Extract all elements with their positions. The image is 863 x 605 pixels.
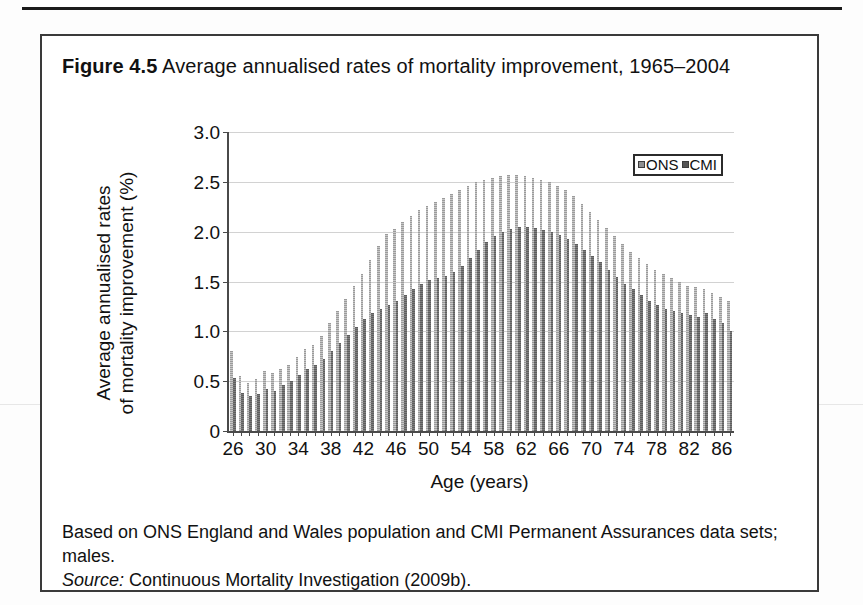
bar-cmi (477, 250, 480, 431)
x-tick-mark (559, 431, 560, 436)
bar-cmi (665, 309, 668, 431)
x-tick-mark (567, 431, 568, 436)
bar-series-container (229, 132, 734, 431)
bar-group (595, 132, 603, 431)
bar-cmi (363, 319, 366, 431)
legend-label-cmi: CMI (690, 157, 718, 172)
bar-cmi (404, 295, 407, 431)
figure-container: Figure 4.5 Average annualised rates of m… (40, 34, 819, 592)
bar-cmi (526, 227, 529, 431)
bar-group (701, 132, 709, 431)
x-tick-mark (526, 431, 527, 436)
bar-cmi (599, 262, 602, 431)
x-axis-label: Age (years) (227, 471, 732, 493)
x-tick-mark (681, 431, 682, 436)
bar-group (384, 132, 392, 431)
bar-cmi (355, 327, 358, 431)
bar-group (262, 132, 270, 431)
bar-group (693, 132, 701, 431)
bar-group (465, 132, 473, 431)
x-tick-label: 86 (711, 439, 732, 458)
x-tick-mark (396, 431, 397, 436)
bar-group (685, 132, 693, 431)
x-tick-mark (282, 431, 283, 436)
x-tick-label: 66 (548, 439, 569, 458)
bar-cmi (673, 311, 676, 431)
chart-legend: ONS CMI (633, 154, 723, 176)
bar-group (302, 132, 310, 431)
bar-group (319, 132, 327, 431)
bar-group (416, 132, 424, 431)
x-tick-mark (380, 431, 381, 436)
legend-swatch-ons (638, 161, 645, 168)
x-tick-mark (315, 431, 316, 436)
y-tick-label: 1.5 (194, 272, 220, 291)
legend-swatch-cmi (682, 161, 689, 168)
bar-cmi (274, 391, 277, 431)
x-tick-mark (657, 431, 658, 436)
bar-group (237, 132, 245, 431)
bar-cmi (314, 365, 317, 431)
figure-caption: Based on ONS England and Wales populatio… (62, 520, 792, 592)
bar-group (522, 132, 530, 431)
y-axis-label: Average annualised rates of mortality im… (92, 143, 138, 443)
x-tick-label: 54 (451, 439, 472, 458)
x-tick-mark (274, 431, 275, 436)
x-tick-label: 78 (646, 439, 667, 458)
bar-cmi (371, 313, 374, 431)
y-tick-label: 2.0 (194, 222, 220, 241)
bar-group (424, 132, 432, 431)
y-axis-label-line2: of mortality improvement (%) (115, 143, 138, 443)
bar-group (669, 132, 677, 431)
bar-cmi (697, 317, 700, 431)
bar-cmi (420, 284, 423, 432)
bar-cmi (616, 277, 619, 431)
x-tick-mark (640, 431, 641, 436)
x-tick-mark (290, 431, 291, 436)
bar-group (408, 132, 416, 431)
bar-cmi (257, 394, 260, 431)
x-tick-mark (388, 431, 389, 436)
bar-cmi (689, 315, 692, 431)
x-tick-mark (624, 431, 625, 436)
x-tick-mark (714, 431, 715, 436)
x-tick-mark (453, 431, 454, 436)
x-tick-mark (420, 431, 421, 436)
bar-cmi (640, 295, 643, 431)
x-tick-mark (372, 431, 373, 436)
bar-group (294, 132, 302, 431)
x-tick-mark (486, 431, 487, 436)
bar-cmi (306, 369, 309, 431)
x-tick-mark (616, 431, 617, 436)
x-tick-mark (494, 431, 495, 436)
bar-cmi (323, 359, 326, 431)
bar-group (490, 132, 498, 431)
x-tick-mark (689, 431, 690, 436)
bar-group (538, 132, 546, 431)
x-tick-mark (600, 431, 601, 436)
bar-cmi (624, 284, 627, 432)
bar-group (376, 132, 384, 431)
bar-cmi (713, 319, 716, 431)
caption-basis: Based on ONS England and Wales populatio… (62, 522, 778, 566)
bar-group (563, 132, 571, 431)
page-top-rule (22, 7, 842, 10)
x-tick-mark (697, 431, 698, 436)
x-tick-label: 50 (418, 439, 439, 458)
bar-group (506, 132, 514, 431)
bar-cmi (233, 378, 236, 431)
x-tick-mark (534, 431, 535, 436)
bar-group (677, 132, 685, 431)
bar-group (392, 132, 400, 431)
x-tick-mark (437, 431, 438, 436)
bar-cmi (608, 270, 611, 431)
figure-title: Figure 4.5 Average annualised rates of m… (62, 52, 752, 80)
bar-cmi (380, 309, 383, 431)
bar-cmi (705, 313, 708, 431)
bar-cmi (339, 343, 342, 431)
bar-cmi (290, 381, 293, 431)
bar-group (514, 132, 522, 431)
x-tick-mark (477, 431, 478, 436)
bar-group (481, 132, 489, 431)
x-tick-mark (323, 431, 324, 436)
